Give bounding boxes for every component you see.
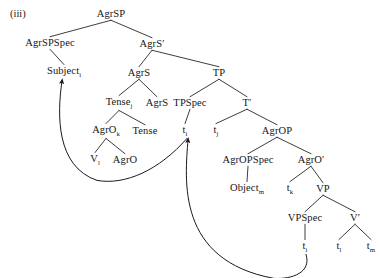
node-label-text: Object <box>230 182 259 193</box>
branch-tpspec-to-t-i-tp <box>185 109 190 123</box>
node-subscript: l <box>340 246 342 253</box>
node-subscript: k <box>290 188 293 195</box>
tree-node-tp: TP <box>213 68 225 79</box>
branch-agrobar-to-vp <box>311 166 323 183</box>
branch-agrs-to-agrs2 <box>139 79 157 97</box>
node-label-text: AgrS <box>128 67 151 78</box>
tree-node-object-m: Objectm <box>230 183 264 196</box>
node-subscript: m <box>259 188 264 195</box>
branch-tbar-to-agrop <box>247 109 277 125</box>
node-label-text: V <box>350 212 358 223</box>
tree-node-vp: VP <box>316 184 330 195</box>
node-label-text: AgrOP <box>262 125 292 136</box>
branch-agrs-to-tense-j <box>119 79 139 95</box>
tree-node-agrsbar: AgrS′ <box>140 39 165 50</box>
tree-node-agropspec: AgrOPSpec <box>222 155 273 166</box>
tree-node-t-m: tm <box>367 241 375 254</box>
node-label-text: AgrO <box>298 154 322 165</box>
tree-node-subject: Subjecti <box>47 66 81 79</box>
tree-node-vbar: V′ <box>350 213 360 224</box>
node-label-text: Tense <box>106 96 131 107</box>
node-label-text: TPSpec <box>173 97 206 108</box>
node-subscript: l <box>98 159 100 166</box>
tree-node-t-l: tl <box>337 241 342 254</box>
branch-agrop-to-agropspec <box>248 137 277 154</box>
node-label-text: TP <box>213 67 225 78</box>
tree-node-tense: Tense <box>133 126 158 137</box>
node-subscript: k <box>116 130 119 137</box>
branch-agrsbar-to-agrs <box>139 50 152 67</box>
branch-agro-k-to-agro <box>106 138 125 153</box>
tree-node-tpspec: TPSpec <box>173 98 206 109</box>
branch-tp-to-tbar <box>219 79 247 97</box>
tree-node-agro-k: AgrOk <box>92 125 120 138</box>
branch-vp-to-vbar <box>323 195 355 212</box>
branch-agro-k-to-v-l <box>95 138 106 152</box>
tree-node-agrsp: AgrSP <box>97 9 126 20</box>
branch-agrsp-to-agrspspec <box>50 20 111 37</box>
tree-node-tbar: T′ <box>243 98 252 109</box>
tree-node-agro: AgrO <box>113 155 137 166</box>
branch-tense-j-to-tense <box>119 110 145 124</box>
node-label-text: VPSpec <box>288 212 322 223</box>
branch-agrsp-to-agrsbar <box>111 20 152 38</box>
node-subscript: m <box>370 246 375 253</box>
node-label-text: AgrSP <box>97 8 126 19</box>
node-subscript: j <box>130 102 132 109</box>
tree-node-vpspec: VPSpec <box>288 213 322 224</box>
tree-node-t-i-tp: ti <box>183 125 188 138</box>
tree-node-t-j: tj <box>214 125 219 138</box>
branch-tbar-to-t-j <box>216 109 247 123</box>
node-label-text: AgrS <box>140 38 163 49</box>
tree-node-agrs2: AgrS <box>146 98 169 109</box>
branch-agropspec-to-object-m <box>247 166 248 181</box>
branch-agrobar-to-t-k <box>290 166 311 181</box>
branch-agrspspec-to-subject <box>50 49 64 64</box>
tree-node-agrs: AgrS <box>128 68 151 79</box>
node-prime-mark: ′ <box>358 212 360 223</box>
node-prime-mark: ′ <box>249 97 251 108</box>
movement-arrows <box>60 81 308 278</box>
tree-node-t-k: tk <box>287 183 293 196</box>
node-label-text: AgrOPSpec <box>222 154 273 165</box>
tree-node-tense-j: Tensej <box>106 97 133 110</box>
tree-node-agrobar: AgrO′ <box>298 155 325 166</box>
node-subscript: i <box>306 246 308 253</box>
branch-vbar-to-t-m <box>355 224 371 239</box>
node-label-text: V <box>90 153 98 164</box>
node-label-text: VP <box>316 183 330 194</box>
tree-node-agrop: AgrOP <box>262 126 292 137</box>
node-label-text: AgrO <box>92 124 116 135</box>
node-label-text: AgrS <box>146 97 169 108</box>
node-subscript: i <box>79 71 81 78</box>
branch-vbar-to-t-l <box>339 224 355 239</box>
tree-node-agrspspec: AgrSPSpec <box>25 38 74 49</box>
tree-node-t-i-vp: ti <box>303 241 308 254</box>
branch-tp-to-tpspec <box>190 79 219 97</box>
node-label-text: Tense <box>133 125 158 136</box>
branch-agrsbar-to-tp <box>152 50 219 67</box>
branch-agrop-to-agrobar <box>277 137 311 154</box>
branch-vp-to-vpspec <box>305 195 323 212</box>
node-subscript: j <box>217 130 219 137</box>
node-prime-mark: ′ <box>322 154 324 165</box>
node-label-text: AgrO <box>113 154 137 165</box>
node-label-text: Subject <box>47 65 79 76</box>
branch-tense-j-to-agro-k <box>106 110 119 123</box>
node-subscript: i <box>186 130 188 137</box>
tree-node-v-l: Vl <box>90 154 100 167</box>
node-label-text: AgrSPSpec <box>25 37 74 48</box>
node-prime-mark: ′ <box>162 38 164 49</box>
syntax-tree-figure: (iii) AgrSPAgrSPSpecAgrS′SubjectiAgrSTPT… <box>0 0 379 278</box>
